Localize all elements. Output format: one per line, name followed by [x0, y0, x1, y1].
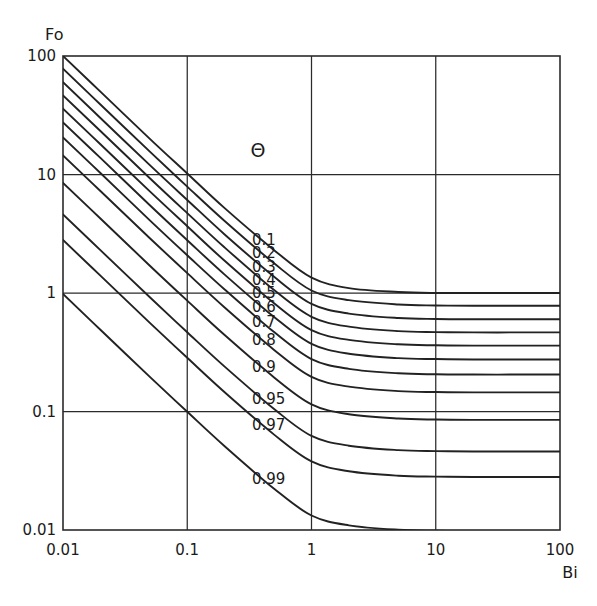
curve-label-theta-0.99: 0.99	[252, 470, 285, 488]
chart-container: 0.10.20.30.40.50.60.70.80.90.950.970.99 …	[0, 0, 597, 606]
fo-vs-bi-chart: 0.10.20.30.40.50.60.70.80.90.950.970.99 …	[0, 0, 597, 606]
curve-label-theta-0.95: 0.95	[252, 390, 285, 408]
theta-symbol: Θ	[251, 139, 266, 161]
x-tick-label-0.01: 0.01	[46, 541, 79, 559]
x-tick-label-1: 1	[307, 541, 317, 559]
curve-label-theta-0.97: 0.97	[252, 416, 285, 434]
x-tick-label-100: 100	[546, 541, 575, 559]
y-tick-label-1: 1	[46, 284, 56, 302]
x-tick-label-10: 10	[426, 541, 445, 559]
x-axis-title: Bi	[562, 563, 577, 582]
y-tick-label-0.01: 0.01	[23, 521, 56, 539]
x-tick-label-0.1: 0.1	[175, 541, 199, 559]
y-tick-label-10: 10	[37, 166, 56, 184]
y-axis-title: Fo	[45, 25, 63, 44]
y-tick-label-100: 100	[27, 47, 56, 65]
contour-labels: 0.10.20.30.40.50.60.70.80.90.950.970.99	[252, 231, 285, 487]
curve-label-theta-0.9: 0.9	[252, 358, 276, 376]
curve-label-theta-0.7: 0.7	[252, 313, 276, 331]
x-axis-tick-labels: 0.010.1110100	[46, 541, 574, 559]
y-tick-label-0.1: 0.1	[32, 403, 56, 421]
y-axis-tick-labels: 0.010.1110100	[23, 47, 56, 539]
curve-label-theta-0.8: 0.8	[252, 331, 276, 349]
